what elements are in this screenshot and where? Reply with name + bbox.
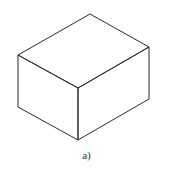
- isometric-box-diagram: [0, 0, 173, 174]
- left-face: [18, 55, 78, 140]
- right-face: [78, 47, 149, 140]
- top-face: [18, 14, 149, 88]
- figure-caption: a): [0, 149, 173, 161]
